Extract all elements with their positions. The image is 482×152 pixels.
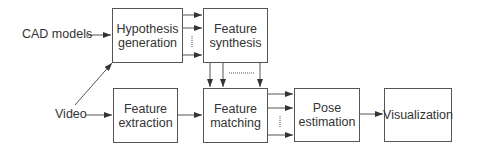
box-label: Feature synthesis	[209, 22, 261, 50]
box-hypothesis-generation: Hypothesis generation	[112, 8, 183, 63]
box-label: Visualization	[383, 108, 453, 122]
input-video: Video	[55, 107, 87, 121]
arrow-video-to-hypothesis	[75, 63, 112, 105]
box-feature-matching: Feature matching	[203, 88, 268, 143]
box-visualization: Visualization	[384, 88, 452, 142]
box-feature-extraction: Feature extraction	[113, 88, 178, 143]
box-label: Feature matching	[210, 102, 261, 130]
box-label: Hypothesis generation	[117, 22, 179, 50]
box-feature-synthesis: Feature synthesis	[203, 8, 268, 63]
box-pose-estimation: Pose estimation	[294, 88, 360, 142]
box-label: Pose estimation	[299, 101, 356, 129]
input-cad-models: CAD models	[22, 27, 92, 41]
box-label: Feature extraction	[118, 102, 172, 130]
